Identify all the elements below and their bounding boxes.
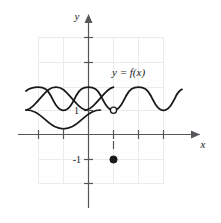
closed-point-dot xyxy=(110,156,117,163)
function-graph: y x 1 -1 y = f(x) xyxy=(0,0,221,223)
axes xyxy=(18,20,200,208)
y-axis-label: y xyxy=(74,10,80,22)
y-tick-label-neg-one: -1 xyxy=(73,154,81,165)
function-label: y = f(x) xyxy=(111,66,145,79)
y-tick-label-one: 1 xyxy=(74,105,79,116)
x-axis-label: x xyxy=(200,138,206,150)
open-point-hole xyxy=(110,107,116,113)
y-axis-arrowhead xyxy=(85,14,93,23)
figure-container: y x 1 -1 y = f(x) xyxy=(0,0,221,223)
x-axis-arrowhead xyxy=(191,131,200,139)
